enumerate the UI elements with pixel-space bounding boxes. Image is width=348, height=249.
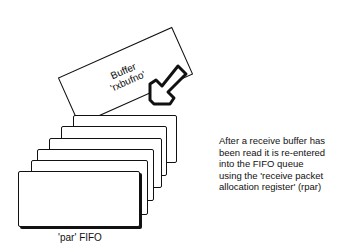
note-line: using the 'receive packet — [219, 170, 348, 182]
note-line: After a receive buffer has — [219, 135, 348, 147]
note-line: allocation register' (rpar) — [219, 181, 348, 193]
explanation-note: After a receive buffer has been read it … — [219, 135, 348, 193]
fifo-label: 'par' FIFO — [40, 232, 120, 243]
note-line: into the FIFO queue — [219, 158, 348, 170]
fifo-card-front — [18, 171, 140, 227]
arrow-down-left-icon — [140, 60, 190, 115]
note-line: been read it is re-entered — [219, 147, 348, 159]
